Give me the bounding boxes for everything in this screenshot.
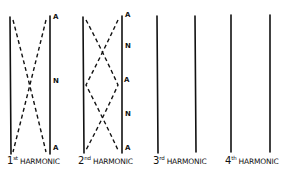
antinode-marker: A bbox=[53, 144, 58, 152]
wave-envelope-2b bbox=[86, 20, 118, 150]
antinode-marker: A bbox=[53, 13, 58, 21]
harmonic-word: HARMONIC bbox=[20, 157, 60, 166]
antinode-marker: A bbox=[125, 11, 130, 19]
harmonic-word: HARMONIC bbox=[167, 157, 207, 166]
wave-envelope-2a bbox=[86, 20, 118, 150]
harmonic-label-3: 3rd HARMONIC bbox=[153, 155, 206, 166]
tube-wall-left-3 bbox=[157, 16, 158, 153]
ordinal-suffix: nd bbox=[84, 155, 91, 161]
tube-wall-left-1 bbox=[10, 17, 11, 154]
node-marker: N bbox=[125, 110, 131, 118]
node-marker: N bbox=[53, 77, 59, 85]
tube-wall-left-2 bbox=[83, 17, 84, 153]
node-marker: N bbox=[125, 42, 131, 50]
harmonic-word: HARMONIC bbox=[93, 157, 133, 166]
antinode-marker: A bbox=[125, 144, 130, 152]
tube-wall-right-3 bbox=[195, 16, 196, 152]
harmonic-word: HARMONIC bbox=[239, 157, 279, 166]
ordinal-suffix: rd bbox=[159, 155, 164, 161]
harmonic-label-4: 4th HARMONIC bbox=[225, 155, 278, 166]
ordinal-suffix: st bbox=[13, 155, 18, 161]
antinode-marker: A bbox=[124, 76, 129, 84]
harmonic-label-2: 2nd HARMONIC bbox=[78, 155, 133, 166]
harmonic-label-1: 1st HARMONIC bbox=[7, 155, 60, 166]
harmonics-diagram bbox=[0, 0, 281, 169]
ordinal-suffix: th bbox=[231, 155, 236, 161]
